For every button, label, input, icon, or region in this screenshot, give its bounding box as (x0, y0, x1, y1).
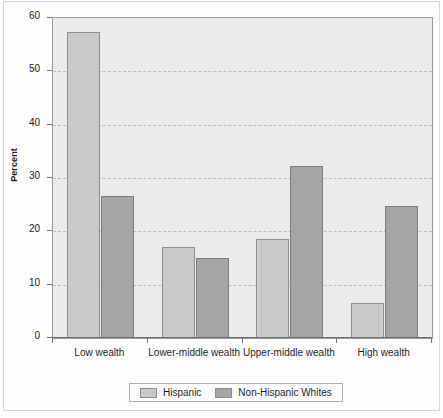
x-axis-tick-mark (336, 338, 337, 343)
y-axis-title: Percent (9, 135, 19, 195)
y-axis-tick-label: 50 (14, 63, 40, 74)
x-axis-tick-mark (147, 338, 148, 343)
x-axis-tick-mark (431, 338, 432, 343)
legend-label: Hispanic (163, 387, 201, 398)
y-axis-tick-label: 30 (14, 170, 40, 181)
plot-inner (53, 18, 432, 338)
gridline (53, 178, 432, 179)
bar-non-hispanic-whites (196, 258, 229, 338)
plot-area (52, 17, 433, 339)
x-axis-tick-mark (52, 338, 53, 343)
y-axis-tick-label: 40 (14, 117, 40, 128)
y-axis-tick-label: 10 (14, 277, 40, 288)
legend-item: Non-Hispanic Whites (215, 387, 331, 398)
bar-non-hispanic-whites (385, 206, 418, 338)
legend-item: Hispanic (140, 387, 201, 398)
y-axis-tick-label: 60 (14, 10, 40, 21)
legend-label: Non-Hispanic Whites (238, 387, 331, 398)
bar-non-hispanic-whites (290, 166, 323, 338)
x-axis-tick-mark (242, 338, 243, 343)
bar-hispanic (351, 303, 384, 338)
gridline (53, 71, 432, 72)
gridline (53, 125, 432, 126)
chart-figure: Percent 0102030405060 Low wealthLower-mi… (0, 0, 443, 418)
x-axis-category-label: High wealth (324, 347, 443, 358)
bar-hispanic (256, 239, 289, 338)
legend-swatch-whites (215, 388, 232, 398)
y-axis-tick-label: 20 (14, 223, 40, 234)
legend-swatch-hispanic (140, 388, 157, 398)
bar-hispanic (162, 247, 195, 338)
y-axis-tick-label: 0 (14, 330, 40, 341)
bar-non-hispanic-whites (101, 196, 134, 338)
chart-legend: HispanicNon-Hispanic Whites (129, 383, 343, 402)
bar-hispanic (67, 32, 100, 338)
